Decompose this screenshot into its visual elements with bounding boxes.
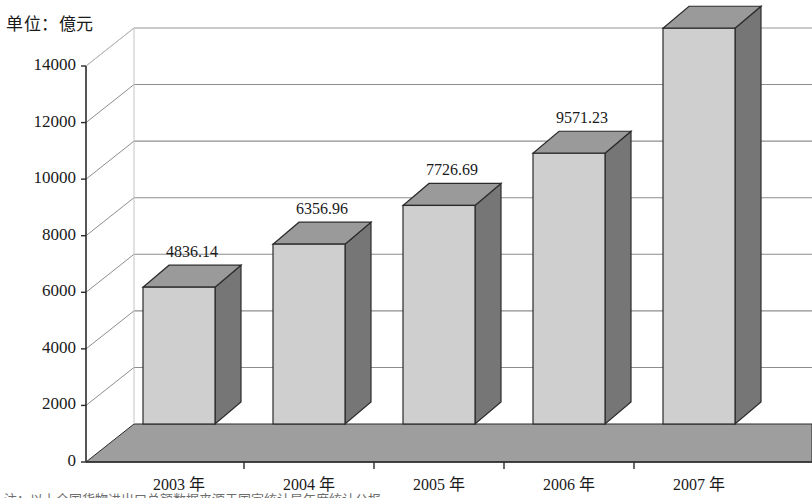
unit-label: 单位：億元 — [6, 10, 94, 35]
floor-group — [86, 424, 812, 462]
x-axis-label-4: 2006 年 — [509, 471, 629, 495]
floor-plane — [86, 424, 812, 462]
chart-canvas — [0, 0, 812, 498]
bar-side-face — [475, 183, 501, 424]
bar-2 — [273, 222, 371, 424]
bar-value-label: 4836.14 — [136, 243, 248, 261]
depth-connector — [86, 85, 134, 123]
bar-front-face — [533, 153, 605, 424]
bar-front-face — [663, 28, 735, 424]
bar-value-label: 9571.23 — [526, 109, 638, 127]
bar-chart-3d: 单位：億元 02000400060008000100001200014000 2… — [0, 0, 812, 498]
bar-4 — [533, 131, 631, 424]
depth-connector — [86, 311, 134, 349]
bar-5 — [663, 6, 761, 424]
y-axis-tick-label: 4000 — [0, 338, 76, 358]
bar-side-face — [605, 131, 631, 424]
depth-connector — [86, 198, 134, 236]
depth-connector — [86, 254, 134, 292]
bar-front-face — [403, 205, 475, 424]
y-axis-tick-label: 6000 — [0, 281, 76, 301]
y-axis-tick-label: 12000 — [0, 112, 76, 132]
bar-front-face — [273, 244, 345, 424]
y-axis-tick-label: 0 — [0, 451, 76, 471]
y-axis-tick-label: 10000 — [0, 168, 76, 188]
bar-1 — [143, 265, 241, 424]
y-axis-tick-label: 8000 — [0, 225, 76, 245]
depth-connector — [86, 141, 134, 179]
bar-value-label: 7726.69 — [396, 161, 508, 179]
bar-side-face — [215, 265, 241, 424]
bar-value-label: 6356.96 — [266, 200, 378, 218]
x-axis-label-5: 2007 年 — [639, 471, 759, 495]
depth-connector — [86, 367, 134, 405]
bar-side-face — [735, 6, 761, 424]
x-axis-label-3: 2005 年 — [379, 471, 499, 495]
y-axis-tick-label: 14000 — [0, 55, 76, 75]
y-axis-tick-label: 2000 — [0, 394, 76, 414]
bar-side-face — [345, 222, 371, 424]
chart-footnote: 注：以上全国货物进出口总额数据来源于国家统计局年度统计公报 — [4, 489, 381, 498]
bar-value-label: 13991.18 — [656, 0, 768, 2]
bar-3 — [403, 183, 501, 424]
bar-front-face — [143, 287, 215, 424]
